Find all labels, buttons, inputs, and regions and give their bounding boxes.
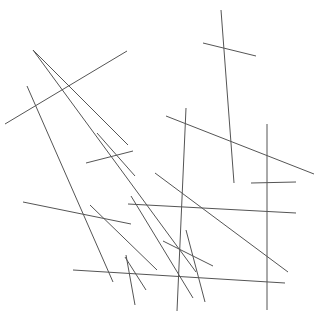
line-segment-figure [0, 0, 316, 317]
figure-background [0, 0, 316, 317]
